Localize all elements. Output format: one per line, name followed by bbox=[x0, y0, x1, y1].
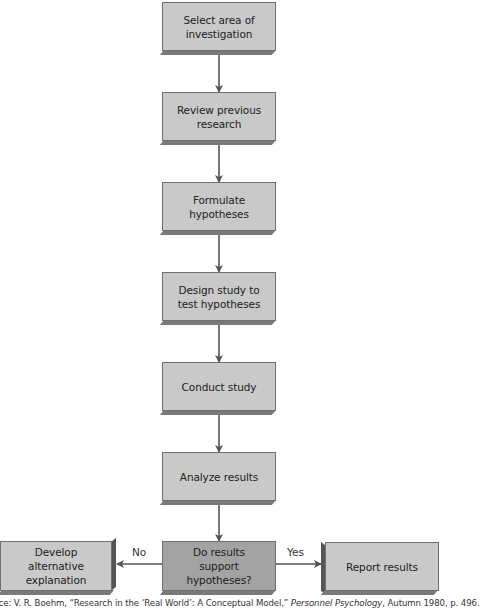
step-text: Design study to test hypotheses bbox=[178, 283, 261, 311]
yes-label: Yes bbox=[287, 546, 304, 558]
step-review-research: Review previous research bbox=[162, 92, 276, 141]
source-prefix: urce: V. R. Boehm, “Research in the ‘Rea… bbox=[0, 598, 291, 608]
step-select-area: Select area of investigation bbox=[162, 2, 276, 51]
step-text: Select area of investigation bbox=[183, 13, 254, 41]
no-label: No bbox=[132, 546, 146, 558]
box-text: Report results bbox=[346, 560, 418, 574]
step-formulate-hypotheses: Formulate hypotheses bbox=[162, 182, 276, 231]
source-journal: Personnel Psychology bbox=[291, 598, 382, 608]
box-text: Develop alternative explanation bbox=[26, 545, 87, 587]
step-text: Conduct study bbox=[182, 380, 257, 394]
decision-support-hypotheses: Do results support hypotheses? bbox=[162, 541, 276, 591]
source-suffix: , Autumn 1980, p. 496. bbox=[382, 598, 479, 608]
step-text: Formulate hypotheses bbox=[163, 193, 275, 221]
step-analyze-results: Analyze results bbox=[162, 452, 276, 501]
step-text: Review previous research bbox=[177, 103, 261, 131]
decision-text: Do results support hypotheses? bbox=[186, 545, 251, 587]
report-results: Report results bbox=[325, 542, 439, 591]
step-design-study: Design study to test hypotheses bbox=[162, 272, 276, 321]
step-conduct-study: Conduct study bbox=[162, 362, 276, 411]
source-citation: urce: V. R. Boehm, “Research in the ‘Rea… bbox=[0, 598, 480, 608]
step-text: Analyze results bbox=[180, 470, 258, 484]
develop-alternative-explanation: Develop alternative explanation bbox=[0, 541, 112, 591]
